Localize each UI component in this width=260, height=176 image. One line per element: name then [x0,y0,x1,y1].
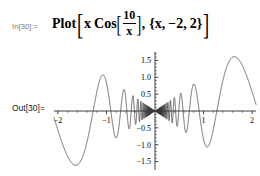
fraction-denominator: x [126,25,132,38]
close-bracket-cos: ] [137,15,142,34]
input-prompt-label: In[30]:= [12,22,38,31]
close-bracket-outer: ] [203,12,209,35]
input-expression[interactable]: Plot [ x Cos [ 10 x ] , { x, −2, 2 } ] [52,6,210,42]
y-axis-tick-label: −1.5 [136,157,151,166]
fraction-numerator: 10 [123,9,135,22]
output-cell[interactable]: Out[30]= −2−112−1.5−1.0−0.50.51.01.5 [0,48,260,176]
y-axis-tick-label: −1.0 [136,141,151,150]
fraction-ten-over-x: 10 x [123,9,136,37]
range-close-brace: } [197,16,203,32]
y-axis-tick-label: 0.5 [141,90,151,99]
x-axis-tick-label: 1 [202,116,206,125]
plot-svg: −2−112−1.5−1.0−0.50.51.01.5 [50,48,260,176]
output-prompt-label: Out[30]= [12,103,45,113]
open-bracket-outer: [ [77,12,83,35]
comma-separator: , [142,16,146,32]
open-bracket-cos: [ [117,15,122,34]
x-axis-tick-label: 2 [250,116,254,125]
range-max: 2 [190,16,197,32]
x-axis-tick-label: −1 [102,116,111,125]
y-axis-tick-label: 1.5 [141,56,151,65]
variable-x: x [84,16,91,32]
y-axis-tick-label: 1.0 [141,73,151,82]
function-head-cos: Cos [94,16,117,32]
plot-graphic[interactable]: −2−112−1.5−1.0−0.50.51.01.5 [50,48,260,176]
range-min: −2, [168,16,186,32]
range-variable: x, [155,16,166,32]
input-cell[interactable]: In[30]:= Plot [ x Cos [ 10 x ] , { x, −2… [0,0,260,48]
function-head-plot: Plot [52,16,76,32]
y-axis-tick-label: −0.5 [136,124,151,133]
